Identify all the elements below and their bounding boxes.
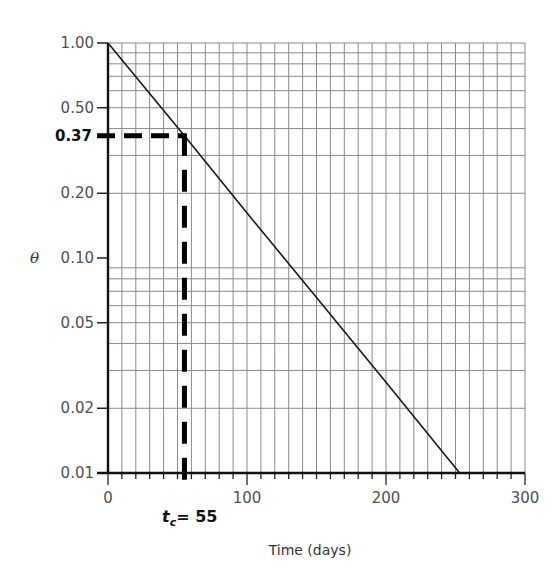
y-tick-label: 0.10 bbox=[61, 249, 94, 267]
tc-value: = 55 bbox=[176, 507, 217, 526]
y-tick-label: 0.50 bbox=[61, 99, 94, 117]
y-tick-label: 1.00 bbox=[61, 34, 94, 52]
axis-ticks bbox=[97, 43, 525, 485]
x-tick-label: 0 bbox=[103, 489, 113, 507]
y-tick-label: 0.05 bbox=[61, 314, 94, 332]
semilog-chart: 1.000.500.200.100.050.020.010100200300 θ… bbox=[0, 0, 558, 580]
y-axis-label: θ bbox=[30, 249, 39, 267]
y-marker-label: 0.37 bbox=[55, 127, 92, 145]
grid bbox=[108, 43, 525, 473]
y-tick-label: 0.01 bbox=[61, 464, 94, 482]
x-tick-label: 300 bbox=[511, 489, 540, 507]
y-tick-label: 0.02 bbox=[61, 399, 94, 417]
x-axis-label: Time (days) bbox=[268, 542, 352, 558]
y-tick-label: 0.20 bbox=[61, 184, 94, 202]
annotations bbox=[97, 134, 186, 492]
x-tick-label: 100 bbox=[233, 489, 262, 507]
tc-label: tc= 55 bbox=[162, 507, 217, 529]
tick-labels: 1.000.500.200.100.050.020.010100200300 bbox=[61, 34, 540, 507]
x-tick-label: 200 bbox=[372, 489, 401, 507]
